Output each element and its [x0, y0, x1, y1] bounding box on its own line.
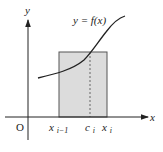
y-axis-label: y	[24, 4, 30, 16]
left-endpoint-base: x	[48, 121, 54, 133]
x-axis-label: x	[149, 111, 155, 123]
sample-point-base: c	[85, 121, 90, 133]
left-endpoint-subscript: i−1	[57, 126, 69, 135]
function-label: y = f(x)	[72, 14, 106, 27]
right-endpoint-label: x i	[101, 121, 112, 135]
origin-label: O	[16, 121, 24, 133]
sample-point-subscript: i	[93, 126, 95, 135]
sample-point-label: c i	[85, 121, 95, 135]
right-endpoint-subscript: i	[110, 126, 112, 135]
riemann-rectangle-diagram: y x O y = f(x) x i−1 c i x i	[0, 0, 163, 152]
left-endpoint-label: x i−1	[48, 121, 68, 135]
riemann-rectangle	[59, 52, 107, 117]
right-endpoint-base: x	[101, 121, 107, 133]
